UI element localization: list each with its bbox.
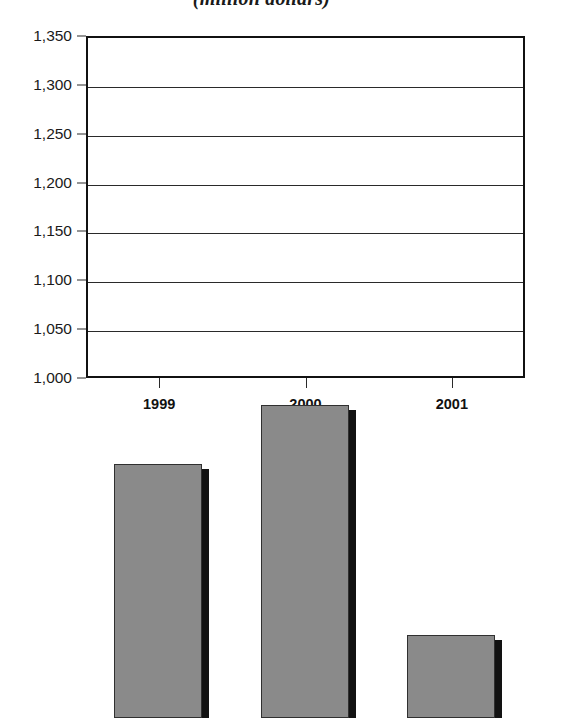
y-axis-tick xyxy=(77,182,86,183)
x-axis-label-2001: 2001 xyxy=(392,396,512,412)
y-axis-tick xyxy=(77,280,86,281)
gridline xyxy=(88,282,523,283)
x-axis-tick xyxy=(452,378,453,388)
gridline xyxy=(88,185,523,186)
bar-body xyxy=(261,405,349,718)
y-axis-tick xyxy=(77,329,86,330)
y-axis-label: 1,300 xyxy=(0,76,72,94)
y-axis-label: 1,250 xyxy=(0,125,72,143)
y-axis-tick xyxy=(77,84,86,85)
gridline xyxy=(88,87,523,88)
y-axis-tick xyxy=(77,133,86,134)
y-axis-tick xyxy=(77,231,86,232)
y-axis-label: 1,100 xyxy=(0,271,72,289)
gridline xyxy=(88,136,523,137)
x-axis-tick xyxy=(159,378,160,388)
x-axis-label-1999: 1999 xyxy=(99,396,219,412)
y-axis-label: 1,200 xyxy=(0,174,72,192)
bar-body xyxy=(407,635,495,718)
gridline xyxy=(88,331,523,332)
x-axis-tick xyxy=(306,378,307,388)
gridline xyxy=(88,233,523,234)
y-axis-tick xyxy=(77,378,86,379)
y-axis-label: 1,000 xyxy=(0,369,72,387)
y-axis-label: 1,050 xyxy=(0,320,72,338)
chart-title: (million dollars) xyxy=(0,0,575,10)
plot-area xyxy=(86,36,525,378)
y-axis-label: 1,350 xyxy=(0,27,72,45)
y-axis-tick xyxy=(77,36,86,37)
bar-body xyxy=(114,464,202,718)
y-axis-label: 1,150 xyxy=(0,222,72,240)
